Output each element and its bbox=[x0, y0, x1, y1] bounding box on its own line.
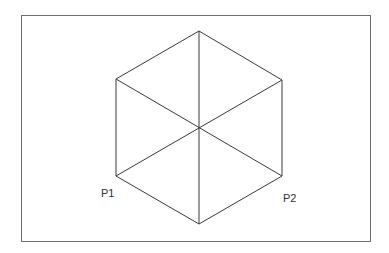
point-label-p1: P1 bbox=[101, 188, 114, 199]
hexagon-diagram bbox=[0, 0, 389, 253]
diagram-frame bbox=[22, 16, 371, 242]
point-label-p2: P2 bbox=[283, 193, 296, 204]
